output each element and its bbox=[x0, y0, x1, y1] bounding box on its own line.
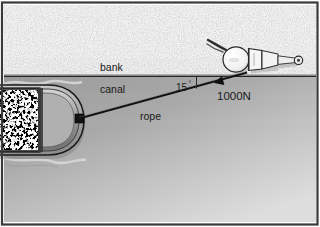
barge-cargo bbox=[0, 90, 38, 150]
torso bbox=[249, 49, 263, 71]
bank-label: bank bbox=[100, 61, 124, 73]
rope-label: rope bbox=[140, 110, 161, 122]
canal-label: canal bbox=[100, 83, 125, 95]
angle-value: 15 bbox=[176, 82, 188, 93]
diagram-artwork: bank canal rope 1000N 15 ° bbox=[0, 0, 320, 227]
barge bbox=[0, 85, 85, 159]
canal-barge-diagram: bank canal rope 1000N 15 ° bbox=[0, 0, 320, 227]
waterline bbox=[4, 75, 316, 77]
force-label: 1000N bbox=[217, 90, 251, 102]
degree-symbol: ° bbox=[189, 80, 192, 87]
